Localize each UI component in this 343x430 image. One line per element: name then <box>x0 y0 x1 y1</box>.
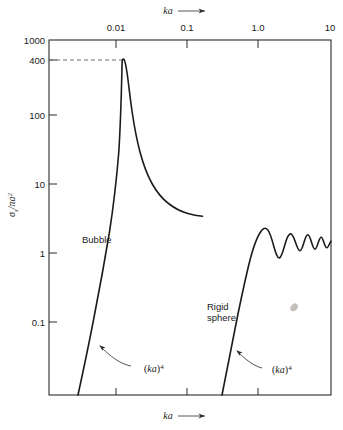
scan-speck <box>290 303 298 311</box>
svg-text:(ka)4: (ka)4 <box>144 363 164 376</box>
plot-frame <box>49 40 331 395</box>
y-tick-label-0: 1000 <box>24 35 45 46</box>
bottom-axis-ticks <box>116 388 258 395</box>
y-axis-title-exponent: 2 <box>6 193 14 197</box>
bubble-power-law-annotation: (ka)4 <box>99 345 164 375</box>
y-axis-ticks <box>49 60 57 322</box>
figure-container: ka 0.01 0.1 1.0 10 <box>0 0 343 430</box>
x-tick-label-0: 0.01 <box>107 22 126 33</box>
y-tick-label-5: 0.1 <box>32 317 45 328</box>
top-axis-title: ka <box>163 5 172 16</box>
x-tick-label-2: 1.0 <box>251 22 264 33</box>
bubble-curve <box>78 59 203 395</box>
x-tick-label-3: 10 <box>325 22 336 33</box>
bottom-axis-arrow-icon <box>178 413 205 418</box>
scattering-cross-section-chart: ka 0.01 0.1 1.0 10 <box>0 0 343 430</box>
bubble-power-law-exponent: 4 <box>160 363 164 371</box>
svg-text:(ka)4: (ka)4 <box>272 364 292 377</box>
top-axis-arrow-icon <box>178 8 205 13</box>
rigid-power-law-exponent: 4 <box>288 364 292 372</box>
y-tick-label-3: 10 <box>34 179 45 190</box>
bubble-power-law-text: ka <box>147 363 156 374</box>
bottom-axis-title: ka <box>163 410 172 421</box>
y-tick-label-2: 100 <box>29 110 45 121</box>
y-tick-label-1: 400 <box>29 55 45 66</box>
rigid-sphere-label-line2: sphere <box>207 312 236 323</box>
x-tick-label-1: 0.1 <box>180 22 193 33</box>
y-axis-title-group: σs/πa2 <box>6 193 20 217</box>
rigid-power-law-annotation: (ka)4 <box>236 350 292 376</box>
rigid-sphere-label-line1: Rigid <box>207 301 229 312</box>
y-tick-label-4: 1 <box>40 248 45 259</box>
y-axis-title-denominator: /πa <box>6 197 17 211</box>
rigid-power-law-text: ka <box>275 364 284 375</box>
top-axis-ticks <box>116 40 258 48</box>
svg-text:σs/πa2: σs/πa2 <box>6 193 20 217</box>
bubble-label: Bubble <box>82 234 112 245</box>
